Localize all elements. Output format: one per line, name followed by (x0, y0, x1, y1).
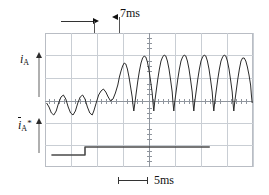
y-label-ia-ref-base: i (18, 118, 21, 132)
y-axis-pointer-upper-icon (38, 57, 40, 97)
scale-bar-label: 5ms (154, 173, 174, 188)
delay-arrow-head-left-icon (112, 14, 118, 20)
trace-ia-ref (51, 147, 209, 155)
time-scale-bar: 5ms (118, 173, 174, 188)
trace-ia (47, 55, 253, 115)
y-label-ia-ref: iA* (18, 119, 32, 133)
span-arrow-line (61, 21, 94, 22)
y-label-ia: iA (20, 53, 29, 67)
delay-label: 7ms (120, 6, 140, 21)
y-axis-pointer-lower-icon (38, 123, 40, 153)
waveform-layer (45, 33, 253, 167)
figure-root: 7ms iA iA* (0, 0, 269, 195)
gridline-v (253, 33, 254, 167)
scale-bar-line (118, 180, 148, 181)
y-label-ia-subscript: A (23, 58, 29, 67)
y-label-ia-ref-star: * (27, 118, 32, 128)
scope-screen (45, 33, 253, 167)
